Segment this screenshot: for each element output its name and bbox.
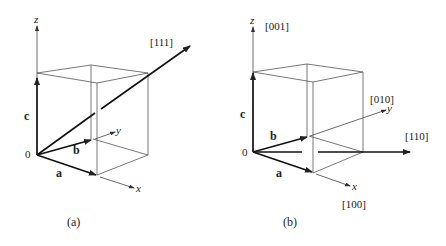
caption-a: (a) (67, 215, 80, 229)
direction-label-110: [110] (405, 130, 428, 142)
crystal-direction-figure: z x y c b a 0 [111] (a) z x y c b a (0, 0, 446, 246)
origin-label-b: 0 (242, 146, 248, 158)
vector-a-b (253, 152, 312, 172)
unit-cell-cube-a (37, 65, 148, 175)
vector-b-b (253, 137, 307, 152)
y-axis-label-a: y (115, 124, 121, 136)
direction-label-111: [111] (150, 36, 173, 48)
vector-label-a-b: a (276, 166, 282, 180)
panel-a: z x y c b a 0 [111] (a) (24, 13, 190, 229)
vector-label-a-a: a (56, 166, 62, 180)
direction-label-010: [010] (370, 93, 394, 105)
direction-label-001: [001] (265, 20, 289, 32)
panel-b: z x y c b a 0 [001] [010] [110] [100] (b… (240, 14, 428, 229)
origin-label-a: 0 (25, 148, 31, 160)
x-axis-b (316, 174, 350, 186)
direction-111-line-lower (37, 113, 95, 155)
x-axis-label-a: x (135, 182, 141, 194)
unit-cell-cube-b (253, 64, 363, 173)
vector-a-a (37, 155, 96, 175)
vector-label-b-b: b (270, 129, 277, 143)
vector-label-b-a: b (73, 143, 80, 157)
x-axis-label-b: x (351, 180, 357, 192)
vector-label-c-a: c (24, 109, 30, 123)
direction-label-100: [100] (342, 198, 366, 210)
x-axis-a (100, 177, 134, 188)
z-axis-label-a: z (33, 13, 39, 25)
caption-b: (b) (283, 215, 297, 229)
direction-111-arrow (101, 46, 190, 109)
vector-b-a (37, 140, 91, 155)
vector-label-c-b: c (240, 107, 246, 121)
y-axis-b (310, 110, 386, 136)
y-axis-a (95, 132, 115, 139)
z-axis-label-b: z (249, 14, 255, 26)
